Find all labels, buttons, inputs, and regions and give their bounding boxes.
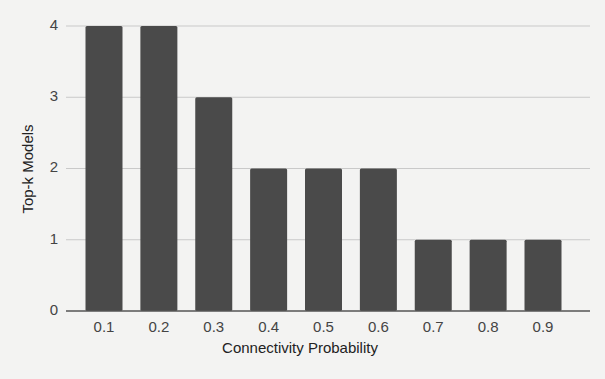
bar-0.1 [86, 26, 123, 311]
bar-0.3 [195, 97, 232, 311]
x-tick-label: 0.6 [368, 318, 389, 335]
y-tick-label: 2 [50, 158, 58, 175]
bar-chart: 01234 0.10.20.30.40.50.60.70.80.9 Connec… [0, 0, 605, 379]
x-tick-label: 0.8 [478, 318, 499, 335]
x-tick-label: 0.5 [313, 318, 334, 335]
x-tick-label: 0.4 [258, 318, 279, 335]
bar-0.2 [140, 26, 177, 311]
y-tick-label: 4 [50, 16, 58, 33]
x-tick-label: 0.7 [423, 318, 444, 335]
x-tick-label: 0.3 [203, 318, 224, 335]
x-axis-ticks: 0.10.20.30.40.50.60.70.80.9 [94, 318, 554, 335]
bar-0.4 [250, 169, 287, 312]
bar-0.6 [360, 169, 397, 312]
bar-0.8 [470, 240, 507, 311]
y-tick-label: 1 [50, 230, 58, 247]
bar-0.5 [305, 169, 342, 312]
x-tick-label: 0.2 [148, 318, 169, 335]
x-axis-title: Connectivity Probability [222, 339, 378, 356]
bar-0.7 [415, 240, 452, 311]
y-tick-label: 0 [50, 301, 58, 318]
x-tick-label: 0.9 [533, 318, 554, 335]
bar-0.9 [525, 240, 562, 311]
x-tick-label: 0.1 [94, 318, 115, 335]
y-axis-ticks: 01234 [50, 16, 58, 318]
y-axis-title: Top-k Models [19, 124, 36, 213]
y-tick-label: 3 [50, 87, 58, 104]
